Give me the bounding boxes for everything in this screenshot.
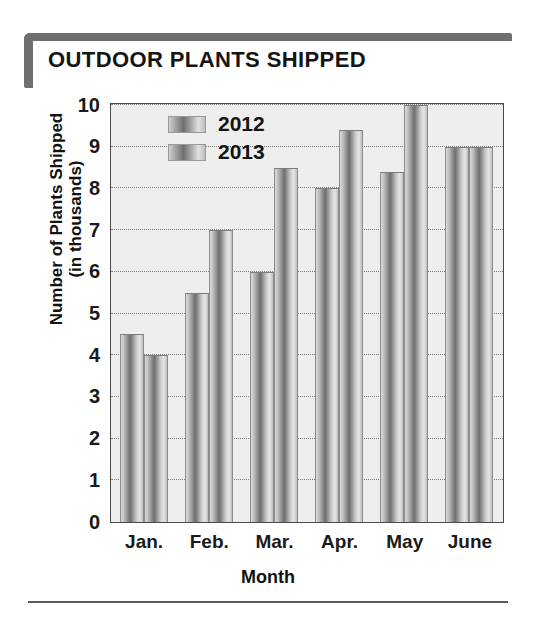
bar: [120, 334, 144, 522]
x-axis-title: Month: [0, 567, 536, 588]
x-axis-tick-label: June: [448, 531, 492, 553]
gridline: [111, 229, 503, 230]
gridline: [111, 187, 503, 188]
legend-label: 2013: [218, 140, 265, 164]
gridline: [111, 104, 503, 105]
x-axis-tick-label: May: [386, 531, 423, 553]
y-axis-title-line1: Number of Plants Shipped: [47, 113, 66, 326]
bar: [209, 230, 233, 522]
y-axis-tick-label: 0: [64, 510, 100, 533]
page-title: OUTDOOR PLANTS SHIPPED: [48, 47, 366, 73]
bar: [274, 168, 298, 522]
chart-legend: 20122013: [168, 110, 265, 166]
bar: [144, 355, 168, 522]
gridline: [111, 479, 503, 480]
x-axis-tick-label: Jan.: [125, 531, 163, 553]
bar: [250, 272, 274, 522]
bar: [404, 105, 428, 522]
y-axis-title: Number of Plants Shipped (in thousands): [47, 89, 85, 349]
bar: [469, 147, 493, 522]
y-axis-title-line2: (in thousands): [66, 160, 85, 277]
y-axis-tick-label: 3: [64, 385, 100, 408]
y-axis-tick-label: 1: [64, 468, 100, 491]
x-axis-tick-label: Mar.: [255, 531, 293, 553]
legend-swatch: [168, 116, 206, 133]
plot-area: [110, 103, 504, 523]
legend-label: 2012: [218, 112, 265, 136]
bar: [339, 130, 363, 522]
legend-swatch: [168, 144, 206, 161]
header-accent-bar-left: [24, 33, 33, 88]
bar: [185, 293, 209, 522]
chart-page: OUTDOOR PLANTS SHIPPED 20122013 01234567…: [0, 0, 536, 641]
gridline: [111, 438, 503, 439]
bar: [380, 172, 404, 522]
gridline: [111, 271, 503, 272]
gridline: [111, 313, 503, 314]
gridline: [111, 354, 503, 355]
footer-divider: [28, 601, 508, 603]
plot-inner: [111, 104, 503, 522]
gridline: [111, 396, 503, 397]
header-accent-bar-top: [24, 33, 512, 41]
x-axis-tick-label: Apr.: [321, 531, 358, 553]
bar: [315, 188, 339, 522]
y-axis-tick-label: 2: [64, 427, 100, 450]
bar: [445, 147, 469, 522]
x-axis-tick-label: Feb.: [190, 531, 229, 553]
legend-item: 2012: [168, 110, 265, 138]
legend-item: 2013: [168, 138, 265, 166]
